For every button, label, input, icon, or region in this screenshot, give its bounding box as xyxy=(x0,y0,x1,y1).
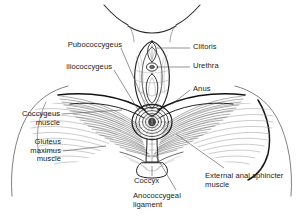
thigh-crease xyxy=(130,27,174,42)
label-sphincter-line2: muscle xyxy=(205,181,301,190)
label-coccygeus-line2: muscle xyxy=(5,119,60,128)
leader-sphincter xyxy=(176,134,224,168)
label-anococcygeal-line2: ligament xyxy=(133,201,203,210)
label-iliococcygeus: iliococcygeus xyxy=(52,63,112,72)
gluteus-maximus-right xyxy=(167,103,274,171)
drawing-ink xyxy=(12,5,292,196)
leader-anus xyxy=(172,90,190,104)
label-gluteus-line3: muscle xyxy=(5,155,61,164)
label-pubococcygeus: Pubococcygeus xyxy=(59,41,122,50)
anococcygeal-ligament-shape xyxy=(146,139,158,162)
label-coccygeus-muscle: Coccygeus muscle xyxy=(5,110,60,127)
label-clitoris: Clitoris xyxy=(193,43,217,52)
label-external-anal-sphincter: External anal sphincter muscle xyxy=(205,172,301,189)
anatomy-figure: Pubococcygeus iliococcygeus Clitoris Ure… xyxy=(0,0,303,218)
label-gluteus-maximus-muscle: Gluteus maximus muscle xyxy=(5,138,61,164)
thigh-outline xyxy=(104,5,200,33)
label-coccyx: Coccyx xyxy=(134,177,159,186)
vulva-hatching xyxy=(134,52,170,109)
vaginal-opening xyxy=(146,74,158,103)
clitoris-structure xyxy=(148,42,157,62)
urethral-opening xyxy=(147,63,158,71)
label-urethra: Urethra xyxy=(193,62,219,71)
label-anus: Anus xyxy=(193,85,211,94)
label-anococcygeal-ligament: Anococcygeal ligament xyxy=(133,192,203,209)
